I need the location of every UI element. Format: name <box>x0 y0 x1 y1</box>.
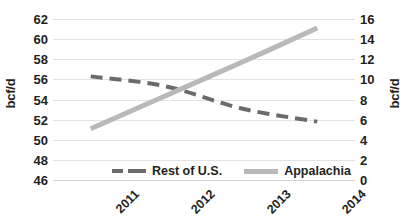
right-axis-tick: 2 <box>360 154 384 167</box>
right-axis-tick: 8 <box>360 94 384 107</box>
left-axis-tick: 56 <box>24 73 48 86</box>
right-axis-tick: 12 <box>360 53 384 66</box>
right-axis-title: bcf/d <box>387 64 402 124</box>
plot-area <box>53 19 355 180</box>
legend-item[interactable]: Rest of U.S. <box>112 165 222 178</box>
left-axis-tick: 50 <box>24 134 48 147</box>
legend-item[interactable]: Appalachia <box>244 165 351 178</box>
solid-line-swatch <box>244 169 278 174</box>
right-axis-tick: 14 <box>360 33 384 46</box>
right-axis-tick: 6 <box>360 114 384 127</box>
series-layer <box>53 19 355 180</box>
x-axis-tick-labels: 2011201220132014 <box>0 180 405 223</box>
left-axis-tick: 58 <box>24 53 48 66</box>
x-axis-tick: 2014 <box>339 187 369 217</box>
left-axis-tick: 52 <box>24 114 48 127</box>
left-axis-tick: 48 <box>24 154 48 167</box>
right-axis-tick: 16 <box>360 13 384 26</box>
left-axis-tick: 62 <box>24 13 48 26</box>
x-axis-tick: 2013 <box>264 187 294 217</box>
x-axis-tick: 2012 <box>188 187 218 217</box>
right-axis-tick: 4 <box>360 134 384 147</box>
left-axis-title: bcf/d <box>3 64 18 124</box>
legend-item-label: Appalachia <box>284 165 351 178</box>
legend-item-label: Rest of U.S. <box>152 165 222 178</box>
left-axis-tick: 54 <box>24 94 48 107</box>
series-line-appalachia <box>91 28 318 129</box>
line-chart: bcf/d bcf/d 626058565452504846 161412108… <box>0 0 405 223</box>
left-axis-tick: 60 <box>24 33 48 46</box>
dashed-line-swatch <box>112 169 146 173</box>
x-axis-tick: 2011 <box>113 187 142 216</box>
chart-legend: Rest of U.S.Appalachia <box>112 163 351 179</box>
right-axis-tick: 10 <box>360 73 384 86</box>
